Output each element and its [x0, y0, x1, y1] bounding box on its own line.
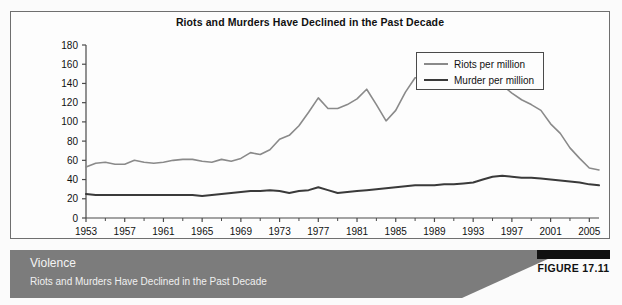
caption-background [10, 250, 550, 298]
y-axis: 020406080100120140160180 [61, 40, 86, 224]
x-axis-tick-label: 1969 [230, 226, 253, 237]
caption-subtitle: Riots and Murders Have Declined in the P… [30, 276, 267, 287]
x-axis-tick-label: 2005 [578, 226, 601, 237]
legend-item-riots: Riots per million [424, 56, 543, 72]
y-axis-tick-label: 100 [61, 116, 78, 127]
legend-swatch-murder [424, 79, 448, 81]
x-axis-tick-label: 1981 [346, 226, 369, 237]
y-axis-tick-label: 160 [61, 59, 78, 70]
y-axis-tick-label: 180 [61, 40, 78, 51]
figure-number-badge: FIGURE 17.11 [537, 250, 610, 284]
y-axis-tick-label: 20 [67, 193, 79, 204]
x-axis-tick-label: 1973 [268, 226, 291, 237]
y-axis-tick-label: 120 [61, 97, 78, 108]
series-line-murder [86, 176, 599, 196]
line-chart-plot: 020406080100120140160180 195319571961196… [11, 12, 611, 240]
y-axis-tick-label: 0 [72, 213, 78, 224]
figure-badge-bar [537, 250, 610, 259]
legend-swatch-riots [424, 63, 448, 65]
legend-label-riots: Riots per million [454, 59, 525, 70]
x-axis-tick-label: 1953 [75, 226, 98, 237]
legend-item-murder: Murder per million [424, 72, 543, 88]
x-axis-tick-label: 2001 [539, 226, 562, 237]
x-axis-tick-label: 1997 [501, 226, 524, 237]
caption-title: Violence [30, 256, 76, 270]
chart-panel: Riots and Murders Have Declined in the P… [10, 11, 610, 239]
x-axis-tick-label: 1985 [385, 226, 408, 237]
x-axis: 1953195719611965196919731977198119851989… [75, 218, 601, 237]
figure-caption-bar: Violence Riots and Murders Have Declined… [10, 250, 610, 298]
y-axis-tick-label: 140 [61, 78, 78, 89]
figure-container: Riots and Murders Have Declined in the P… [0, 0, 622, 305]
chart-legend: Riots per million Murder per million [416, 52, 544, 90]
x-axis-tick-label: 1961 [152, 226, 175, 237]
legend-label-murder: Murder per million [454, 75, 534, 86]
x-axis-tick-label: 1965 [191, 226, 214, 237]
figure-badge-label: FIGURE 17.11 [537, 262, 610, 274]
x-axis-tick-label: 1957 [114, 226, 137, 237]
y-axis-tick-label: 80 [67, 136, 79, 147]
x-axis-tick-label: 1993 [462, 226, 485, 237]
x-axis-tick-label: 1989 [423, 226, 446, 237]
y-axis-tick-label: 40 [67, 174, 79, 185]
y-axis-tick-label: 60 [67, 155, 79, 166]
x-axis-tick-label: 1977 [307, 226, 330, 237]
